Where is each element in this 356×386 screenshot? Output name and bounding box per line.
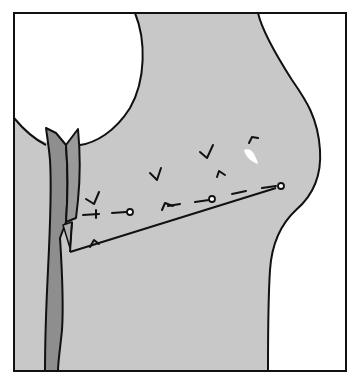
pin-circle <box>278 183 284 189</box>
pin-circle <box>127 209 133 215</box>
pin-circle <box>209 196 215 202</box>
illustration-canvas <box>0 0 356 386</box>
dash-segment <box>112 212 126 213</box>
vertical-strip-right-leaf <box>66 129 80 222</box>
surgical-illustration <box>0 0 356 386</box>
